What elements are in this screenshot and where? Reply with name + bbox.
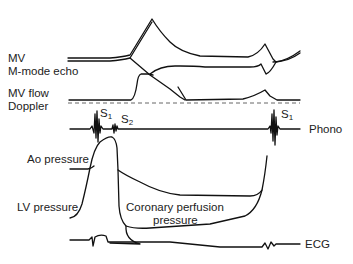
coronary-perfusion-trace <box>118 170 262 196</box>
mv-mmode-label-line2: M-mode echo <box>8 65 78 78</box>
s2-sub: 2 <box>129 118 133 127</box>
mv-mmode-label-line1: MV <box>8 52 25 65</box>
mv-mmode-anterior-trace-2 <box>68 22 152 61</box>
s1-first-label: S1 <box>100 107 112 123</box>
mv-doppler-trace-decline <box>178 87 300 100</box>
mv-doppler-label-line2: Doppler <box>8 100 48 113</box>
s1-second-label: S1 <box>281 108 293 124</box>
mv-doppler-trace <box>69 74 153 100</box>
s1-second-main: S <box>281 108 289 120</box>
s1-second-sub: 1 <box>289 113 293 122</box>
s2-main: S <box>121 113 129 125</box>
lv-pressure-label: LV pressure <box>17 201 78 214</box>
coronary-label-line2: pressure <box>153 214 198 227</box>
coronary-perfusion-outline <box>110 226 140 244</box>
ecg-label: ECG <box>305 238 330 251</box>
s2-label: S2 <box>121 113 133 129</box>
coronary-label-line1: Coronary perfusion <box>126 201 224 214</box>
phono-label: Phono <box>309 123 342 136</box>
mv-mmode-posterior-flat <box>150 62 276 74</box>
mv-doppler-label-line1: MV flow <box>8 87 49 100</box>
ecg-trace <box>70 235 300 249</box>
s1-first-main: S <box>100 107 108 119</box>
ao-pressure-label: Ao pressure <box>27 153 89 166</box>
s1-first-sub: 1 <box>108 112 112 121</box>
mv-mmode-anterior-trace <box>68 19 300 62</box>
